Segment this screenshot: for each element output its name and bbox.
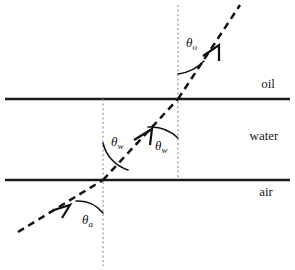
medium-label-water: water: [250, 128, 280, 143]
refraction-diagram: oil water air θa θw θw θo: [0, 0, 295, 270]
diagram-canvas: oil water air θa θw θw θo: [0, 0, 295, 270]
theta-a-subscript: a: [88, 219, 93, 229]
theta-w-right-subscript: w: [161, 145, 167, 155]
angle-label-theta-w-right: θw: [155, 138, 167, 155]
arrow-incident-air: [54, 205, 70, 218]
angle-label-theta-a: θa: [82, 212, 93, 229]
angle-label-theta-o: θo: [186, 35, 197, 52]
theta-w-left-subscript: w: [117, 141, 123, 151]
angle-label-theta-w-left: θw: [111, 134, 123, 151]
theta-a-arc: [76, 201, 103, 213]
medium-label-air: air: [259, 184, 273, 199]
medium-label-oil: oil: [261, 76, 275, 91]
theta-o-subscript: o: [192, 42, 197, 52]
